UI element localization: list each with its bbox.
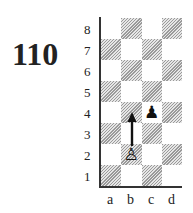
board-left-axis bbox=[99, 17, 101, 188]
square-b5 bbox=[121, 81, 141, 102]
file-label-d: d bbox=[168, 192, 175, 208]
square-d8 bbox=[162, 18, 182, 39]
board-bottom-axis bbox=[99, 186, 182, 188]
square-a5 bbox=[101, 81, 121, 102]
square-c4: ♟ bbox=[142, 102, 162, 123]
square-d5 bbox=[162, 81, 182, 102]
diagram-number: 110 bbox=[12, 36, 58, 73]
square-b8 bbox=[121, 18, 141, 39]
file-label-a: a bbox=[107, 192, 113, 208]
square-c2 bbox=[142, 144, 162, 165]
rank-label-8: 8 bbox=[84, 22, 91, 38]
square-a1 bbox=[101, 165, 121, 186]
square-b1 bbox=[121, 165, 141, 186]
black-pawn-icon: ♟ bbox=[142, 102, 162, 123]
rank-label-5: 5 bbox=[84, 85, 91, 101]
square-a3 bbox=[101, 123, 121, 144]
square-d2 bbox=[162, 144, 182, 165]
square-d6 bbox=[162, 60, 182, 81]
square-d3 bbox=[162, 123, 182, 144]
white-pawn-icon: ♙ bbox=[121, 144, 141, 165]
square-a6 bbox=[101, 60, 121, 81]
square-a7 bbox=[101, 39, 121, 60]
square-a8 bbox=[101, 18, 121, 39]
rank-label-7: 7 bbox=[84, 43, 91, 59]
square-a4 bbox=[101, 102, 121, 123]
square-d1 bbox=[162, 165, 182, 186]
square-c6 bbox=[142, 60, 162, 81]
square-c5 bbox=[142, 81, 162, 102]
rank-label-2: 2 bbox=[84, 148, 91, 164]
file-label-b: b bbox=[127, 192, 134, 208]
square-c8 bbox=[142, 18, 162, 39]
square-b2: ♙ bbox=[121, 144, 141, 165]
rank-label-4: 4 bbox=[84, 106, 91, 122]
rank-label-6: 6 bbox=[84, 64, 91, 80]
square-d7 bbox=[162, 39, 182, 60]
square-b7 bbox=[121, 39, 141, 60]
square-a2 bbox=[101, 144, 121, 165]
chess-board: ♟ ♙ bbox=[101, 18, 182, 186]
square-c7 bbox=[142, 39, 162, 60]
rank-label-1: 1 bbox=[84, 169, 91, 185]
square-c3 bbox=[142, 123, 162, 144]
square-c1 bbox=[142, 165, 162, 186]
move-arrow-icon bbox=[125, 112, 139, 146]
rank-label-3: 3 bbox=[84, 127, 91, 143]
square-b6 bbox=[121, 60, 141, 81]
file-label-c: c bbox=[148, 192, 154, 208]
square-d4 bbox=[162, 102, 182, 123]
